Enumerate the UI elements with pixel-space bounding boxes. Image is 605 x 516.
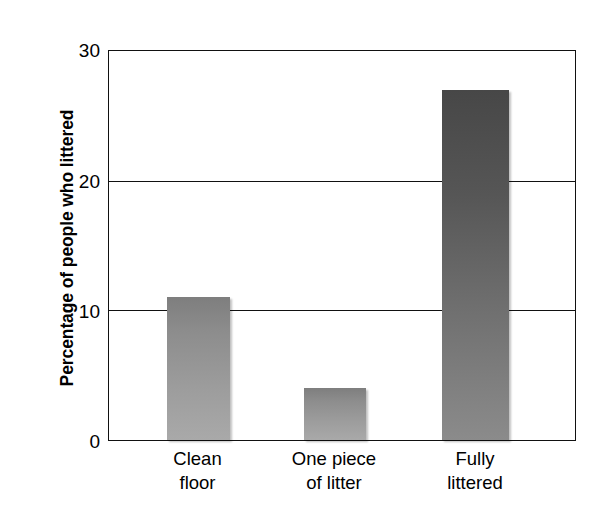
y-tick-label-20: 20 (54, 172, 100, 191)
x-label-fully-littered-line1: Fully (407, 447, 543, 471)
y-tick-label-10: 10 (54, 302, 100, 321)
bar-chart: Percentage of people who littered 30 20 … (0, 0, 605, 516)
x-axis-category-labels: Clean floor One piece of litter Fully li… (108, 447, 576, 509)
plot-area (108, 50, 576, 441)
x-label-fully-littered-line2: littered (407, 471, 543, 495)
x-label-clean-floor: Clean floor (130, 447, 265, 495)
bar-one-piece-of-litter[interactable] (304, 388, 366, 440)
y-tick-label-0: 0 (54, 432, 100, 451)
x-label-fully-littered: Fully littered (407, 447, 543, 495)
bars-layer (109, 51, 575, 440)
y-axis-tick-labels: 30 20 10 0 (50, 0, 100, 516)
bar-clean-floor[interactable] (167, 297, 230, 440)
bar-fully-littered[interactable] (442, 90, 509, 440)
x-label-one-piece-of-litter: One piece of litter (266, 447, 402, 495)
x-label-one-piece-line2: of litter (266, 471, 402, 495)
y-tick-label-30: 30 (54, 41, 100, 60)
x-label-clean-floor-line1: Clean (130, 447, 265, 471)
x-label-clean-floor-line2: floor (130, 471, 265, 495)
x-label-one-piece-line1: One piece (266, 447, 402, 471)
